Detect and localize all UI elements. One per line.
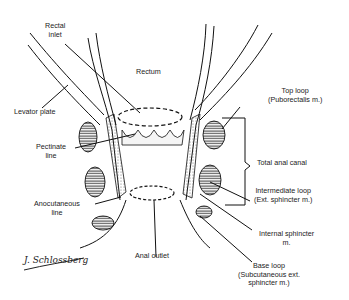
top-loop-left [79, 122, 97, 152]
internal-sphincter-left [106, 114, 126, 198]
total-anal-canal-bracket [222, 118, 250, 205]
label-top-loop: Top loop (Puborectalis m.) [268, 87, 322, 104]
label-levator-plate: Levator plate [14, 108, 56, 117]
label-intermediate-loop: Intermediate loop (Ext. sphincter m.) [254, 187, 312, 204]
label-pectinate-line: Pectinate line [36, 143, 66, 160]
intermediate-loop-left [85, 167, 105, 197]
mucosal-folds [122, 130, 184, 145]
base-loop-left [92, 216, 114, 230]
label-base-loop: Base loop (Subcutaneous ext. sphincter m… [238, 262, 300, 288]
artist-signature: J. Schlossberg [24, 255, 88, 265]
top-loop-right [203, 121, 225, 149]
label-internal-sphincter: Internal sphincter m. [259, 230, 314, 247]
label-rectal-inlet: Rectal inlet [45, 22, 65, 39]
intermediate-loop-right [199, 165, 221, 195]
label-rectum: Rectum [136, 68, 161, 77]
label-anocutaneous-line: Anocutaneous line [34, 200, 80, 217]
label-anal-outlet: Anal outlet [135, 252, 169, 261]
label-total-anal-canal: Total anal canal [257, 159, 307, 168]
base-loop-right [196, 206, 212, 218]
internal-sphincter-right [183, 114, 200, 198]
anal-outlet-ring [130, 186, 174, 200]
rectal-inlet-ring [118, 108, 182, 126]
